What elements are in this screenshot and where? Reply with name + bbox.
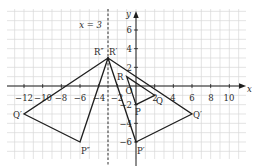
- x-tick-label: −8: [55, 93, 68, 103]
- coordinate-diagram: x y −12 −10 −8 −6 −4 −2 2 4 6 8 10 6 4 2…: [0, 0, 253, 168]
- vertex-label-r-prime: R′: [109, 47, 117, 57]
- vertex-label-q-double-prime: Q′: [13, 110, 22, 120]
- y-axis-arrow-icon: [133, 11, 138, 18]
- vertex-label-r: R: [117, 72, 124, 82]
- x-tick-label: −6: [74, 93, 87, 103]
- y-tick-label: −6: [119, 137, 132, 147]
- x-axis-arrow-icon: [239, 83, 246, 88]
- y-tick-label: 6: [127, 25, 132, 35]
- x-tick-label: −12: [15, 93, 33, 103]
- vertex-label-p: P: [135, 107, 141, 117]
- x-tick-label: 10: [224, 93, 235, 103]
- y-axis-label: y: [125, 9, 131, 19]
- x-tick-label: 6: [189, 93, 194, 103]
- x-tick-label: 8: [208, 93, 213, 103]
- x-axis-label: x: [247, 84, 252, 94]
- mirror-line-label: x = 3: [79, 20, 102, 30]
- y-tick-label: −2: [119, 100, 132, 110]
- vertex-label-r-double-prime: R″: [94, 47, 104, 57]
- y-tick-label: 4: [127, 44, 132, 54]
- vertex-label-p-double-prime: P″: [81, 146, 90, 156]
- vertex-label-q-prime: Q′: [193, 110, 202, 120]
- vertex-label-q: Q: [156, 96, 163, 106]
- vertex-label-p-prime: P′: [137, 146, 145, 156]
